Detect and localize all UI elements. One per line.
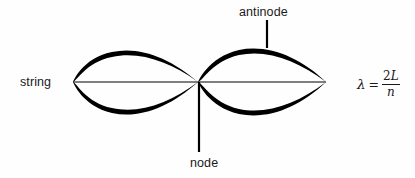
fraction: 2L n <box>382 70 400 99</box>
equals-sign: = <box>368 77 382 92</box>
string-label: string <box>20 76 51 89</box>
numerator-coefficient: 2 <box>383 69 391 83</box>
left-lobe-upper-arc <box>73 50 198 82</box>
left-lobe-lower-arc <box>73 82 198 115</box>
antinode-label: antinode <box>239 6 288 19</box>
numerator-variable: L <box>391 69 399 83</box>
standing-wave-figure: string antinode node λ = 2L n <box>0 0 415 178</box>
lambda-symbol: λ <box>357 76 368 92</box>
fraction-numerator: 2L <box>382 70 400 84</box>
right-lobe-lower-arc <box>198 82 326 115</box>
wave-illustration <box>0 0 415 178</box>
right-lobe-upper-arc <box>198 49 326 82</box>
fraction-denominator: n <box>386 85 396 99</box>
wavelength-formula: λ = 2L n <box>357 70 400 99</box>
node-label: node <box>190 157 218 170</box>
